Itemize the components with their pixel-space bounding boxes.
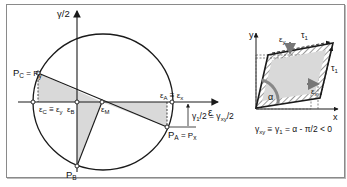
tau-top-label: τ1: [301, 30, 309, 41]
tau-right-label: τ1: [331, 63, 339, 74]
x-axis-label: x: [333, 112, 338, 122]
gamma1-dimension-label: γ1/2 = γxy/2: [192, 111, 234, 122]
gamma-half-label: γ/2: [57, 8, 70, 19]
shear-strain-formula: γxy ≡ γ1 = α - π/2 < 0: [255, 124, 332, 135]
alpha-label: α: [268, 92, 273, 102]
eps-a-label: εA ≡ εx: [160, 91, 183, 101]
pa-px-label: PA = Px: [168, 129, 197, 141]
pc-py-label: PC = Py: [13, 67, 43, 80]
eps-y-label: εy: [279, 35, 286, 45]
y-axis-label: y: [249, 30, 254, 40]
eps-c-label: εC ≡ εy: [39, 105, 63, 115]
eps-m-label: εM: [101, 105, 110, 115]
deformed-element-diagram: y x εy εx τ1 τ1 α γxy ≡ γ1 = α - π/2 < 0: [249, 30, 339, 135]
diagram-canvas: γ/2 ε PC = Py εC ≡ εy εB εM εA ≡ εx PA =…: [0, 0, 347, 187]
mohr-circle-diagram: γ/2 ε PC = Py εC ≡ εy εB εM εA ≡ εx PA =…: [13, 8, 234, 181]
pb-label: PB: [66, 169, 77, 181]
point-pb: [75, 164, 79, 168]
point-eps-c-left: [31, 100, 35, 104]
point-eps-m: [100, 100, 104, 104]
eps-b-label: εB: [67, 105, 75, 115]
point-eps-b: [75, 100, 79, 104]
point-eps-a: [170, 100, 174, 104]
